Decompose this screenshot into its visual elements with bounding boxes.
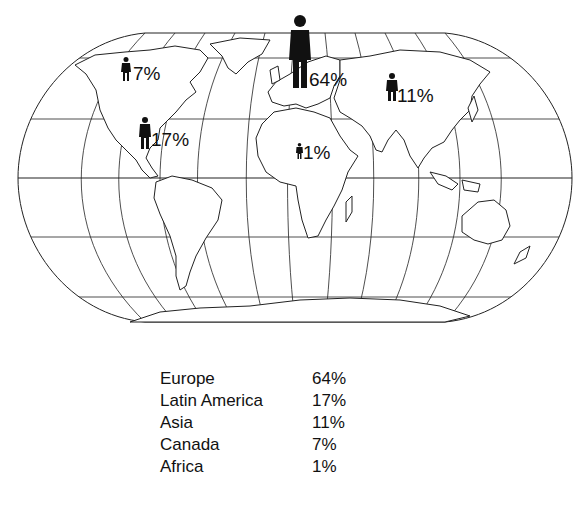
legend-row: Asia 11% [160, 412, 346, 434]
person-icon-latin-america [138, 117, 152, 149]
legend-region: Latin America [160, 390, 312, 412]
map-label-africa: 1% [303, 143, 330, 162]
map-label-latin-america: 17% [151, 130, 189, 149]
legend-region: Canada [160, 434, 312, 456]
greenland [210, 38, 270, 74]
map-label-europe: 64% [309, 70, 347, 89]
map-label-canada: 7% [133, 64, 160, 83]
person-icon-africa [296, 143, 303, 159]
australia [462, 200, 510, 244]
legend-value: 7% [312, 434, 337, 456]
legend-value: 64% [312, 368, 346, 390]
legend-region: Africa [160, 456, 312, 478]
legend-value: 1% [312, 456, 337, 478]
person-icon-canada [121, 57, 131, 81]
map-label-asia: 11% [397, 86, 434, 105]
legend-row: Europe 64% [160, 368, 346, 390]
africa [256, 108, 358, 238]
south-america [154, 176, 222, 290]
legend-region: Europe [160, 368, 312, 390]
legend-row: Latin America 17% [160, 390, 346, 412]
antarctica [130, 298, 470, 322]
asia [334, 50, 490, 168]
legend-table: Europe 64% Latin America 17% Asia 11% Ca… [160, 368, 346, 478]
legend-region: Asia [160, 412, 312, 434]
legend-value: 17% [312, 390, 346, 412]
legend-value: 11% [312, 412, 345, 434]
legend-row: Canada 7% [160, 434, 346, 456]
legend-row: Africa 1% [160, 456, 346, 478]
